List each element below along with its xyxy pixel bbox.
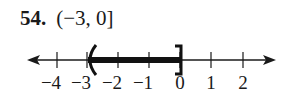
tick-label: 1: [206, 72, 216, 93]
tick-labels: −4−3−2−1012: [41, 72, 248, 93]
tick-label: −3: [71, 72, 91, 93]
tick-label: 0: [175, 72, 185, 93]
number-line: −4−3−2−1012: [0, 0, 288, 102]
tick-label: −4: [41, 72, 62, 93]
shaded-interval: [88, 57, 180, 63]
tick-label: 2: [238, 72, 248, 93]
tick-label: −2: [102, 72, 122, 93]
tick-label: −1: [133, 72, 153, 93]
